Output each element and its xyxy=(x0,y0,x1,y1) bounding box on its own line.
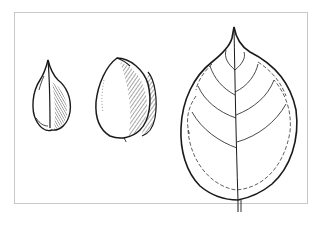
nut-side-view xyxy=(96,58,156,142)
leaf xyxy=(181,27,297,212)
seed-front-view xyxy=(33,60,70,131)
botanical-illustration xyxy=(0,0,320,234)
